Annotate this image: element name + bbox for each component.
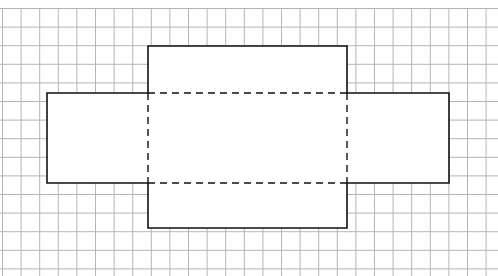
- prism-net-diagram: [0, 0, 498, 276]
- net-boundary: [47, 46, 449, 228]
- net-outline: [47, 46, 449, 228]
